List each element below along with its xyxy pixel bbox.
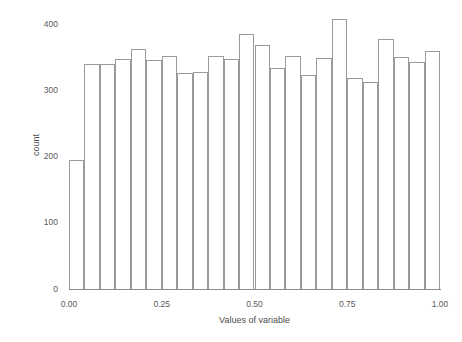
x-tick-label: 0.75 (327, 299, 367, 309)
x-tick-label: 1.00 (420, 299, 460, 309)
x-tick-label: 0.00 (49, 299, 89, 309)
x-axis-title: Values of variable (69, 315, 440, 325)
x-axis-tick-labels: 0.000.250.500.751.00 (0, 0, 462, 342)
histogram-figure: count 0100200300400 0.000.250.500.751.00… (0, 0, 462, 342)
x-tick-label: 0.50 (235, 299, 275, 309)
x-tick-label: 0.25 (142, 299, 182, 309)
